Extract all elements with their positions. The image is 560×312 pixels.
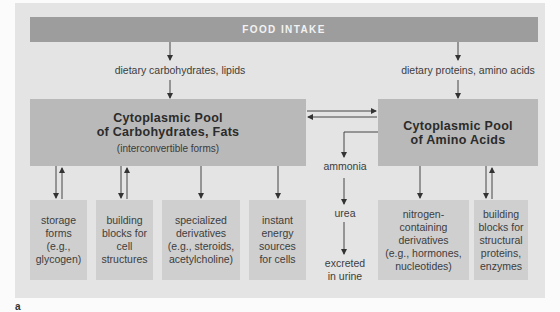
arrow-down-icon	[344, 132, 378, 157]
arrow-layer	[0, 0, 560, 312]
figure-label: a	[15, 301, 21, 312]
